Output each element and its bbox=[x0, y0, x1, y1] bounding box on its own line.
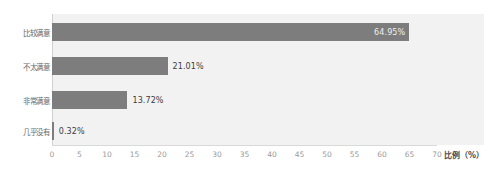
bar-0[interactable] bbox=[52, 23, 409, 41]
category-label-3-wrap: 几乎没有 bbox=[0, 122, 50, 140]
category-label-0: 比较满意 bbox=[4, 27, 50, 38]
bar-value-label-1: 21.01% bbox=[173, 62, 204, 71]
x-tick-label: 65 bbox=[405, 150, 415, 159]
x-tick-label: 35 bbox=[240, 150, 250, 159]
x-tick-label: 25 bbox=[185, 150, 195, 159]
x-tick-label: 10 bbox=[102, 150, 112, 159]
x-tick-label: 15 bbox=[130, 150, 140, 159]
bar-2[interactable] bbox=[52, 91, 127, 109]
bar-1[interactable] bbox=[52, 57, 168, 75]
x-tick-label: 0 bbox=[50, 150, 55, 159]
x-tick-label: 70 bbox=[432, 150, 442, 159]
category-label-1-wrap: 不太满意 bbox=[0, 57, 50, 75]
bar-value-label-2: 13.72% bbox=[132, 96, 163, 105]
x-tick-label: 30 bbox=[212, 150, 222, 159]
x-tick-label: 20 bbox=[157, 150, 167, 159]
bar-3[interactable] bbox=[52, 122, 54, 140]
x-tick-label: 5 bbox=[77, 150, 82, 159]
bar-chart: 比较满意 64.95% 不太满意 21.01% 非常满意 13.72% 几乎没有… bbox=[0, 0, 484, 180]
x-tick-label: 45 bbox=[295, 150, 305, 159]
category-label-2: 非常满意 bbox=[4, 95, 50, 106]
x-tick-label: 60 bbox=[377, 150, 387, 159]
x-tick-label: 40 bbox=[267, 150, 277, 159]
bar-value-label-0: 64.95% bbox=[374, 28, 405, 37]
category-label-0-wrap: 比较满意 bbox=[0, 23, 50, 41]
bar-value-label-3: 0.32% bbox=[59, 127, 85, 136]
x-tick-label: 55 bbox=[350, 150, 360, 159]
category-label-2-wrap: 非常满意 bbox=[0, 91, 50, 109]
category-label-1: 不太满意 bbox=[4, 61, 50, 72]
x-tick-label: 50 bbox=[322, 150, 332, 159]
x-axis-title: 比例（%） bbox=[444, 149, 484, 160]
category-label-3: 几乎没有 bbox=[4, 126, 50, 137]
